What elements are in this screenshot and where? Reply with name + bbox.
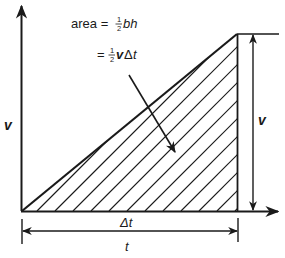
velocity-time-diagram: area = 1 2 bh = 1 2 v Δ t v v Δt t (0, 0, 285, 258)
y-axis-label: v (4, 117, 13, 133)
height-label: v (258, 112, 267, 128)
formula2-delta: Δ (124, 47, 133, 62)
diagram-svg: area = 1 2 bh = 1 2 v Δ t v v Δt t (0, 0, 285, 258)
formula-line-2: = 1 2 v Δ t (97, 46, 138, 64)
formula-area-prefix: area = (71, 16, 108, 31)
formula2-frac-num: 1 (110, 46, 114, 55)
formula-frac-num: 1 (117, 15, 121, 24)
delta-t-label: Δt (119, 215, 134, 230)
formula-line-1: area = 1 2 bh (71, 15, 137, 33)
formula-frac-den: 2 (117, 24, 121, 33)
pointer-arrow (129, 75, 175, 152)
formula2-v: v (116, 47, 124, 62)
formula2-frac-den: 2 (110, 55, 114, 64)
t-label: t (125, 239, 130, 254)
formula-bh: bh (123, 16, 137, 31)
formula2-t: t (133, 47, 138, 62)
formula-equals: = (97, 47, 105, 62)
